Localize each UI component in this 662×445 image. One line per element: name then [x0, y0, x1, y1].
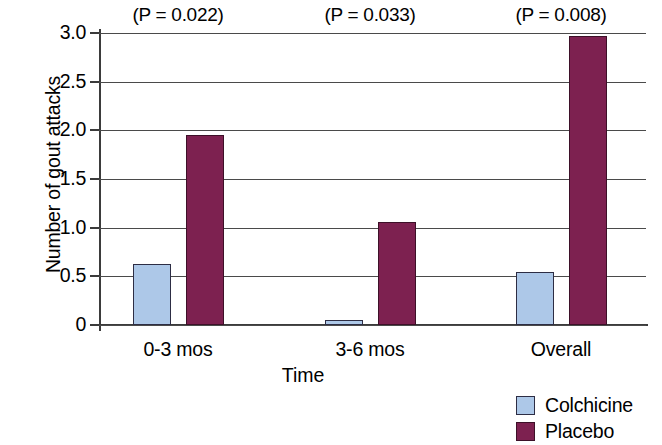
legend-label: Placebo [545, 420, 614, 443]
x-axis-category-label: 3-6 mos [335, 338, 404, 361]
y-axis-tick-label: 0 [75, 313, 86, 336]
bar-overall-placebo [569, 36, 607, 325]
y-axis-tick-label: 2.5 [60, 70, 86, 93]
legend-item-placebo[interactable]: Placebo [516, 418, 633, 444]
gridline [99, 179, 646, 180]
y-axis-tick [90, 32, 99, 34]
y-axis-tick [90, 129, 99, 131]
y-axis-tick [90, 275, 99, 277]
bar-overall-colchicine [516, 272, 554, 325]
bar-0-3-mos-placebo [186, 135, 224, 325]
gridline [99, 325, 646, 326]
x-axis-category-label: 0-3 mos [143, 338, 212, 361]
p-value-label: (P = 0.022) [133, 4, 224, 26]
y-axis-tick-label: 1.0 [60, 216, 86, 239]
x-axis-title: Time [282, 364, 325, 387]
y-axis-tick [90, 227, 99, 229]
y-axis-tick-label: 1.5 [60, 167, 86, 190]
gridline [99, 228, 646, 229]
bar-3-6-mos-placebo [378, 222, 416, 325]
bar-0-3-mos-colchicine [133, 264, 171, 325]
gridline [99, 82, 646, 83]
p-value-label: (P = 0.008) [516, 4, 607, 26]
y-axis-tick-label: 0.5 [60, 264, 86, 287]
gout-attacks-bar-chart: Number of gout attacks 00.51.01.52.02.53… [0, 0, 662, 445]
y-axis-tick [90, 324, 99, 326]
legend-swatch-placebo-icon [516, 422, 535, 441]
y-axis-tick-label: 2.0 [60, 118, 86, 141]
x-axis-category-label: Overall [531, 338, 591, 361]
gridline [99, 33, 646, 34]
gridline [99, 130, 646, 131]
bar-3-6-mos-colchicine [325, 320, 363, 325]
plot-area: 00.51.01.52.02.53.0 [99, 33, 646, 325]
legend-item-colchicine[interactable]: Colchicine [516, 392, 633, 418]
y-axis-tick [90, 81, 99, 83]
legend-swatch-colchicine-icon [516, 396, 535, 415]
y-axis-tick [90, 178, 99, 180]
legend-label: Colchicine [545, 394, 633, 417]
gridline [99, 276, 646, 277]
p-value-label: (P = 0.033) [325, 4, 416, 26]
chart-legend: ColchicinePlacebo [516, 392, 633, 444]
y-axis-tick-label: 3.0 [60, 21, 86, 44]
